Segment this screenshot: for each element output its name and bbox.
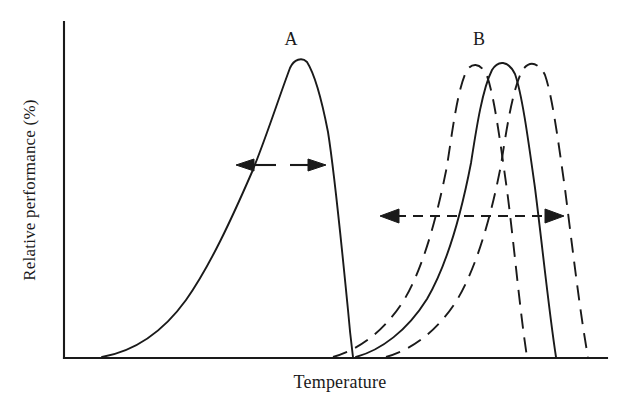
curve-label-a: A xyxy=(276,29,306,50)
curve-label-b: B xyxy=(464,29,494,50)
thermal-breadth-b-arrow xyxy=(380,209,564,223)
curve-b-left-path xyxy=(333,65,527,357)
thermal-breadth-a-arrow xyxy=(236,159,326,171)
thermal-performance-figure: A B Relative performance (%) Temperature xyxy=(0,0,630,417)
plot-canvas xyxy=(0,0,630,417)
y-axis-label: Relative performance (%) xyxy=(20,75,40,305)
curve-a-path xyxy=(102,59,353,357)
x-axis-label: Temperature xyxy=(240,372,440,393)
